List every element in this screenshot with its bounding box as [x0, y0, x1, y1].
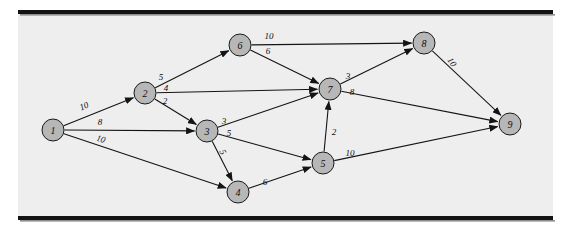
node-circle-1[interactable] [42, 119, 64, 141]
node-circle-5[interactable] [312, 152, 334, 174]
node-circle-4[interactable] [227, 181, 249, 203]
node-7[interactable]: 7 [319, 78, 341, 100]
bottom-rule [18, 216, 553, 220]
node-circle-3[interactable] [196, 120, 218, 142]
node-1[interactable]: 1 [42, 119, 64, 141]
node-8[interactable]: 8 [413, 32, 435, 54]
graph-figure: 123456789 1081054235562101063810 [0, 0, 569, 234]
node-2[interactable]: 2 [134, 82, 156, 104]
node-circle-8[interactable] [413, 32, 435, 54]
node-5[interactable]: 5 [312, 152, 334, 174]
top-rule [18, 10, 553, 14]
node-9[interactable]: 9 [499, 113, 521, 135]
node-circle-9[interactable] [499, 113, 521, 135]
top-rule-shadow [20, 14, 555, 16]
node-circle-6[interactable] [229, 34, 251, 56]
node-6[interactable]: 6 [229, 34, 251, 56]
node-4[interactable]: 4 [227, 181, 249, 203]
bottom-rule-shadow [20, 220, 555, 222]
node-circle-2[interactable] [134, 82, 156, 104]
graph-canvas: 123456789 1081054235562101063810 [0, 0, 569, 234]
node-circle-7[interactable] [319, 78, 341, 100]
node-3[interactable]: 3 [196, 120, 218, 142]
